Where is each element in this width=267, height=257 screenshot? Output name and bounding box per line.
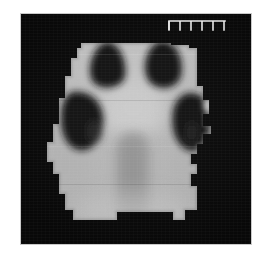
tissue-slab xyxy=(21,14,252,245)
scan-frame xyxy=(20,13,252,245)
scale-ruler xyxy=(167,17,227,33)
specimen-wrap xyxy=(21,14,252,245)
scale-ruler-icon xyxy=(167,17,227,33)
figure-root xyxy=(0,0,267,257)
tissue-base xyxy=(21,14,252,245)
bottom-bright-pool xyxy=(77,192,189,228)
